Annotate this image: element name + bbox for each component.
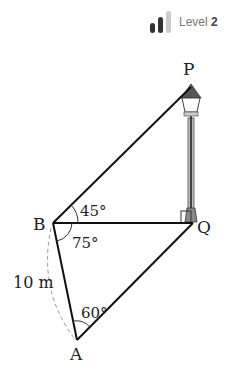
- geometry-diagram: P Q B A 45° 75° 60° 10 m: [0, 0, 234, 388]
- label-B: B: [33, 214, 46, 234]
- length-label: 10 m: [13, 273, 54, 292]
- label-A: A: [69, 344, 83, 364]
- label-Q: Q: [197, 217, 211, 237]
- angle-arc-45: [71, 205, 78, 223]
- street-lamp-icon: [181, 84, 201, 222]
- line-BP: [53, 87, 191, 223]
- angle-label-60: 60°: [81, 304, 108, 322]
- label-P: P: [183, 59, 194, 79]
- angle-label-45: 45°: [80, 202, 107, 220]
- angle-label-75: 75°: [72, 234, 99, 252]
- angle-arc-75: [57, 223, 72, 241]
